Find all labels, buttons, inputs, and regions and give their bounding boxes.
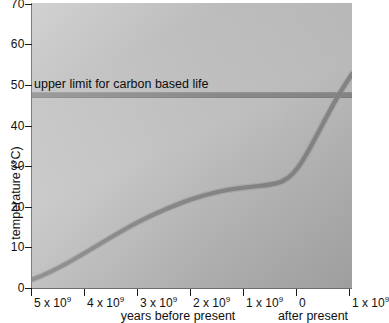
y-axis-line	[31, 3, 32, 288]
y-tick-50	[25, 85, 32, 86]
y-tick-label-0: 0	[18, 281, 25, 295]
x-axis-line	[31, 288, 352, 289]
x-label-exponent: 9	[67, 295, 71, 304]
x-label-mantissa: 5 x 10	[34, 296, 67, 310]
x-tick-label-0: 0	[299, 296, 306, 310]
y-tick-60	[25, 44, 32, 45]
x-axis-caption-before: years before present	[63, 309, 293, 323]
x-tick-label-1e9-after: 1 x 109	[352, 296, 389, 310]
x-tick-label-3e9-before: 3 x 109	[140, 296, 177, 310]
x-label-exponent: 9	[385, 295, 389, 304]
x-label-mantissa: 4 x 10	[87, 296, 120, 310]
x-axis-caption-after: after present	[268, 309, 358, 323]
x-label-mantissa: 0	[299, 296, 306, 310]
x-tick-5e9-before	[31, 289, 32, 296]
temperature-curve	[31, 3, 352, 288]
x-label-exponent: 9	[173, 295, 177, 304]
x-tick-label-2e9-before: 2 x 109	[193, 296, 230, 310]
y-tick-label-50: 50	[11, 78, 25, 92]
x-label-exponent: 9	[120, 295, 124, 304]
x-tick-label-1e9-before: 1 x 109	[246, 296, 283, 310]
x-label-mantissa: 1 x 10	[246, 296, 279, 310]
y-tick-20	[25, 207, 32, 208]
x-label-exponent: 9	[279, 295, 283, 304]
y-axis-title: temperature (°C)	[9, 138, 23, 248]
x-label-exponent: 9	[226, 295, 230, 304]
plot-area	[31, 3, 352, 288]
y-tick-label-40: 40	[11, 119, 25, 133]
y-tick-40	[25, 126, 32, 127]
x-tick-label-5e9-before: 5 x 109	[34, 296, 71, 310]
x-tick-3e9-before	[137, 289, 138, 296]
x-tick-1e9-before	[243, 289, 244, 296]
x-tick-label-4e9-before: 4 x 109	[87, 296, 124, 310]
y-tick-10	[25, 247, 32, 248]
x-label-mantissa: 1 x 10	[352, 296, 385, 310]
y-tick-70	[25, 4, 32, 5]
y-tick-label-60: 60	[11, 37, 25, 51]
x-tick-4e9-before	[84, 289, 85, 296]
x-tick-2e9-before	[190, 289, 191, 296]
x-tick-0	[296, 289, 297, 296]
x-label-mantissa: 2 x 10	[193, 296, 226, 310]
y-tick-30	[25, 166, 32, 167]
y-tick-label-70: 70	[11, 0, 25, 11]
x-tick-1e9-after	[349, 289, 350, 296]
x-label-mantissa: 3 x 10	[140, 296, 173, 310]
